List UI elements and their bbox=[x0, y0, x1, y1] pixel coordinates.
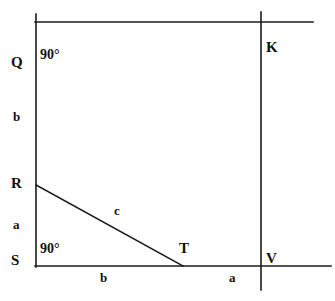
vertex-label-r: R bbox=[11, 176, 22, 191]
side-label-a-bottom: a bbox=[229, 271, 236, 284]
vertex-label-q: Q bbox=[11, 55, 23, 70]
vertex-label-k: K bbox=[266, 40, 278, 55]
side-label-a-left: a bbox=[13, 218, 20, 231]
side-label-b-bottom: b bbox=[100, 271, 107, 284]
angle-label-top-right-angle: 90° bbox=[40, 48, 60, 62]
angle-label-bottom-right-angle: 90° bbox=[40, 242, 60, 256]
side-label-c-hypotenuse: c bbox=[114, 204, 120, 217]
vertex-label-t: T bbox=[179, 241, 189, 256]
geometry-diagram: Q R S T K V b a b a c 90° 90° bbox=[0, 0, 335, 301]
vertex-label-s: S bbox=[11, 253, 19, 268]
side-label-b-left: b bbox=[13, 110, 20, 123]
vertex-label-v: V bbox=[266, 251, 277, 266]
